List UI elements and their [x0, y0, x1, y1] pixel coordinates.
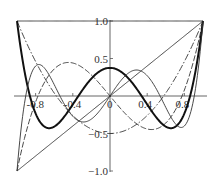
chart: -0.8-0.400.40.81.00.5−0.5−1.0	[0, 0, 217, 190]
x-tick-label: -0.8	[27, 98, 45, 110]
y-tick-label: −0.5	[88, 128, 108, 140]
y-tick-label: −1.0	[88, 165, 108, 177]
y-tick-label: 0.5	[94, 53, 108, 65]
